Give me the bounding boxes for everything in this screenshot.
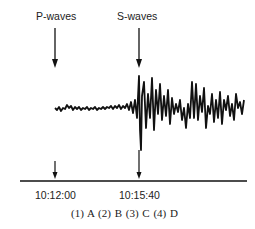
answer-options: (1) A (2) B (3) C (4) D — [71, 207, 178, 219]
p-arrival-time: 10:12:00 — [35, 189, 76, 201]
option-2-label: B — [115, 207, 122, 219]
seismic-trace — [55, 76, 244, 150]
option-3-label: C — [142, 207, 149, 219]
s-arrival-marker — [137, 150, 142, 179]
option-1-number: (1) — [71, 207, 84, 219]
s-wave-arrow — [136, 28, 142, 68]
option-1-label: A — [87, 207, 94, 219]
p-wave-arrow — [52, 28, 58, 68]
option-2-number: (2) — [98, 207, 111, 219]
s-waves-label: S-waves — [117, 10, 157, 22]
p-waves-label: P-waves — [36, 10, 76, 22]
option-4-number: (4) — [153, 207, 166, 219]
option-4-label: D — [170, 207, 178, 219]
option-3-number: (3) — [126, 207, 139, 219]
p-arrival-marker — [53, 161, 58, 179]
s-arrival-time: 10:15:40 — [119, 189, 160, 201]
